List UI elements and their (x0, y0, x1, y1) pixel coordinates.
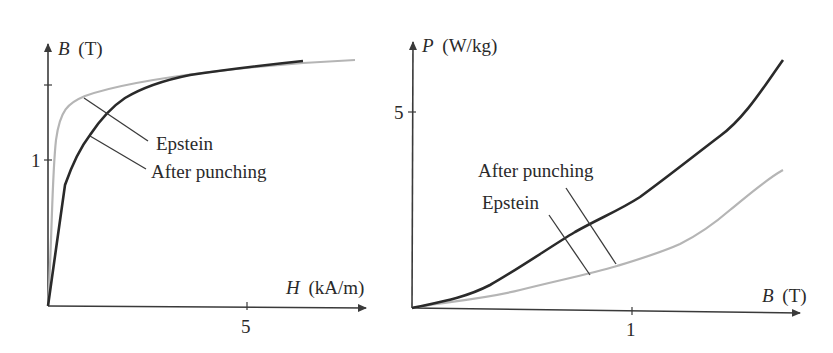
pb-y-axis (412, 42, 413, 308)
pb-y-tick-label: 5 (394, 102, 404, 123)
bh-after-leader (90, 136, 146, 169)
bh-after-punching-curve (48, 61, 303, 306)
pb-epstein-curve (412, 170, 783, 308)
pb-chart: 5 1 P (W/kg) B (T) After punching Epstei… (394, 35, 807, 340)
bh-x-axis (48, 306, 366, 308)
bh-y-axis-title: B (T) (58, 38, 103, 60)
pb-x-var: B (762, 285, 774, 306)
pb-epstein-label: Epstein (482, 192, 539, 213)
bh-epstein-label: Epstein (156, 133, 213, 154)
pb-y-axis-title: P (W/kg) (421, 35, 497, 57)
bh-x-unit: (kA/m) (308, 277, 364, 299)
figure: 1 5 B (T) H (kA/m) Epstein After punchin… (0, 0, 833, 353)
bh-after-punching-label: After punching (151, 161, 267, 182)
pb-after-leader (566, 188, 616, 264)
pb-x-tick-label: 1 (626, 319, 636, 340)
bh-y-var: B (58, 38, 70, 59)
bh-x-tick-label: 5 (241, 316, 251, 337)
pb-y-var: P (421, 35, 434, 56)
pb-after-punching-label: After punching (478, 160, 594, 181)
pb-x-axis-title: B (T) (762, 285, 807, 307)
pb-x-unit: (T) (782, 285, 806, 307)
pb-y-unit: (W/kg) (442, 35, 497, 57)
pb-x-axis (412, 308, 800, 313)
bh-y-tick-label: 1 (31, 150, 41, 171)
bh-y-unit: (T) (78, 38, 102, 60)
bh-x-var: H (285, 277, 301, 298)
bh-epstein-curve (48, 60, 355, 306)
bh-chart: 1 5 B (T) H (kA/m) Epstein After punchin… (31, 38, 366, 337)
figure-canvas: 1 5 B (T) H (kA/m) Epstein After punchin… (0, 0, 833, 353)
bh-x-axis-title: H (kA/m) (285, 277, 364, 299)
